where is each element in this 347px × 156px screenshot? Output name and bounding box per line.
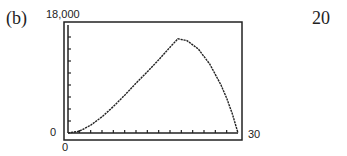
- graph-frame: [64, 22, 242, 140]
- calculator-graph: [0, 0, 347, 156]
- data-curve: [68, 39, 238, 133]
- axis-ticks: [68, 37, 227, 133]
